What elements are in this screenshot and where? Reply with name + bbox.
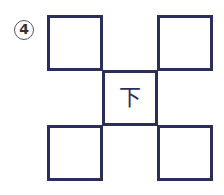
center-character: 下 — [102, 70, 158, 126]
problem-number: 4 — [14, 20, 34, 40]
answer-box-top-right[interactable] — [157, 15, 213, 71]
answer-box-bottom-left[interactable] — [47, 125, 103, 181]
answer-box-bottom-right[interactable] — [157, 125, 213, 181]
answer-box-top-left[interactable] — [47, 15, 103, 71]
